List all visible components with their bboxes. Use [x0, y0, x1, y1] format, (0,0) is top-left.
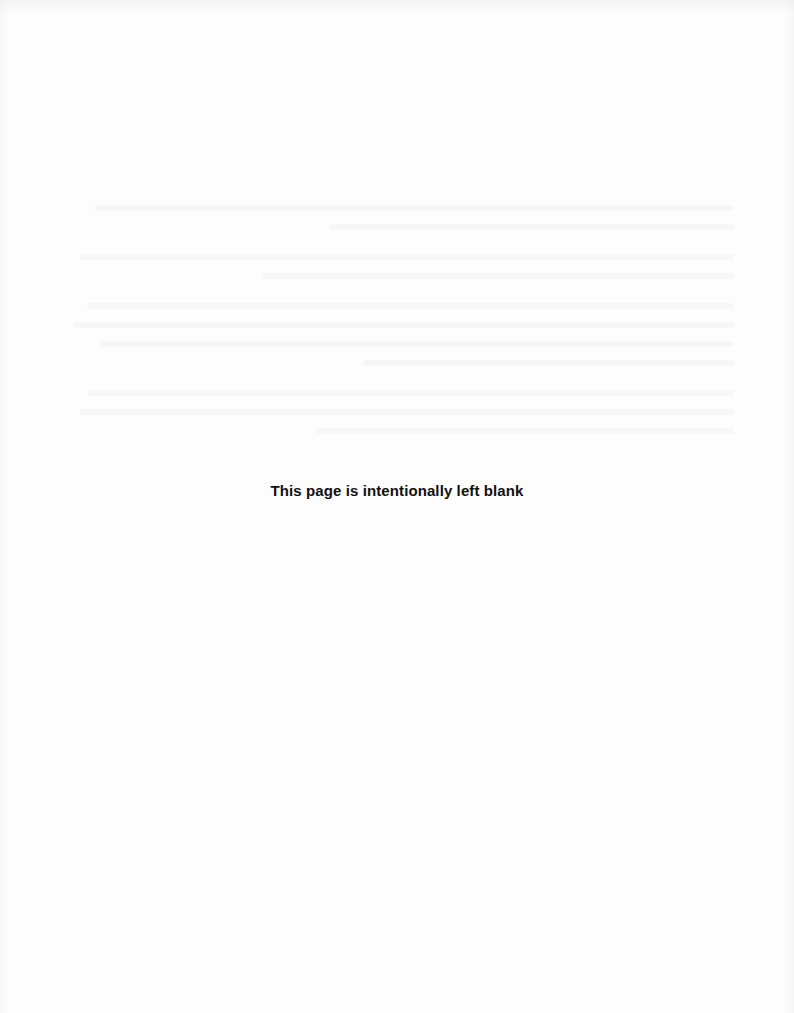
blank-page-notice: This page is intentionally left blank: [0, 482, 794, 499]
reverse-side-text-shadow: [60, 205, 734, 447]
scanned-page: This page is intentionally left blank: [0, 0, 794, 1013]
